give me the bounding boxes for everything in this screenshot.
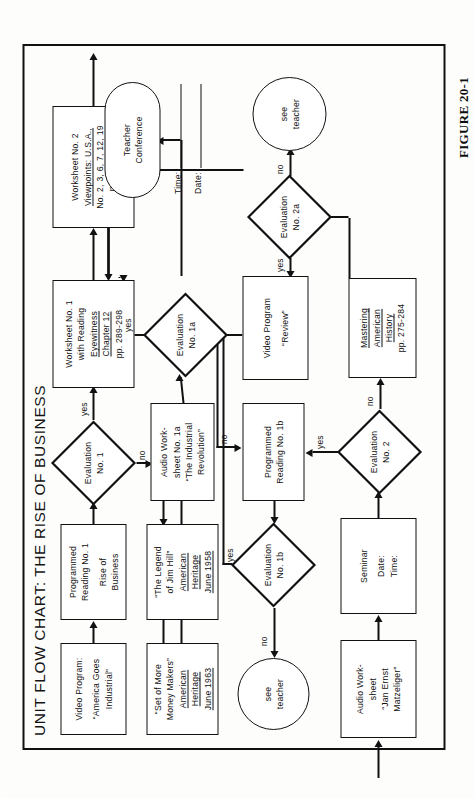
node-teacher-conference[interactable]: Teacher Conference — [104, 82, 160, 198]
connector-eval1b-no-to-seeteacher — [273, 608, 275, 654]
page-title: UNIT FLOW CHART: THE RISE OF BUSINESS — [30, 385, 48, 736]
connector-seminar-to-eval2 — [377, 495, 379, 518]
connector-video2-to-conference — [162, 139, 180, 141]
node-video-program-america-goes-industrial[interactable]: Video Program: “America Goes Industrial” — [60, 643, 126, 735]
node-line: Revolution” — [194, 429, 206, 475]
connector-eval2-yes-up — [312, 451, 338, 453]
connector-ws2-exit — [92, 58, 94, 106]
node-line: sheet — [366, 678, 378, 700]
connector-eval2a-no-to-seeteacher2 — [289, 152, 291, 176]
node-line: Worksheet No. 2 — [68, 133, 80, 201]
edge-label-eval1-yes: yes — [78, 402, 88, 416]
arrowhead — [376, 378, 384, 385]
date-field-blank[interactable] — [200, 84, 201, 168]
node-line: Programmed — [66, 546, 78, 598]
node-line: “The Industrial — [182, 423, 194, 482]
node-line: No. 2 — [379, 441, 391, 463]
node-evaluation-1a[interactable]: Evaluation No. 1a — [142, 292, 228, 378]
figure-caption: FIGURE 20-1 — [455, 77, 471, 158]
node-label: Evaluation No. 1b — [230, 522, 316, 608]
node-citation-money-makers[interactable]: “Set of More Money Makers” American Heri… — [146, 643, 218, 735]
node-see-teacher-2[interactable]: see teacher — [252, 77, 326, 151]
node-line: Business — [108, 554, 120, 591]
node-line: No. 1b — [273, 552, 285, 579]
connector-cite1-stub-a — [162, 620, 164, 643]
node-mastering-american-history[interactable]: Mastering American History pp. 275-284 — [348, 278, 416, 378]
connector-ws1-to-ws2 — [92, 232, 94, 280]
node-line: see — [261, 687, 273, 702]
node-line: History — [382, 314, 394, 343]
node-programmed-reading-1b[interactable]: Programmed Reading No. 1b — [242, 403, 304, 501]
node-evaluation-1b[interactable]: Evaluation No. 1b — [230, 522, 316, 608]
node-line: with Reading — [74, 308, 86, 361]
node-line: Evaluation — [261, 544, 273, 587]
node-line: June 1963 — [201, 668, 213, 710]
edge-label-eval2-no: no — [364, 396, 374, 406]
node-line: June 1958 — [201, 551, 213, 593]
node-video-program-review[interactable]: Video Program “Review” — [242, 276, 308, 380]
node-line: see — [277, 107, 289, 122]
time-field-blank[interactable] — [180, 84, 181, 168]
connector-cite2-stub-b — [180, 500, 182, 524]
node-line: Eyewitness — [87, 311, 99, 357]
node-line: Reading No. 1 — [78, 543, 90, 601]
node-line: pp. 275-284 — [394, 304, 406, 353]
node-line: No. 2a — [289, 204, 301, 231]
node-line: Evaluation — [81, 442, 93, 485]
node-line: “The Legend — [151, 546, 163, 597]
node-line: No. 1a — [185, 322, 197, 349]
node-line: Video Program: — [72, 657, 84, 720]
node-line: “America Goes — [89, 659, 101, 720]
node-programmed-reading-1[interactable]: Programmed Reading No. 1 Rise of Busines… — [60, 524, 126, 620]
arrowhead — [305, 449, 312, 457]
node-line: sheet No. 1a — [170, 426, 182, 478]
date-field-label: Date: — [192, 172, 202, 194]
node-line: “Review” — [278, 310, 290, 346]
edge-label-eval2a-yes: yes — [274, 258, 284, 272]
node-line: Chapter 12 — [99, 311, 111, 356]
node-see-teacher-1[interactable]: see teacher — [237, 658, 309, 730]
node-audio-worksheet-matzeliger[interactable]: Audio Work- sheet “Jan Ernst Matzeliger” — [340, 640, 416, 738]
node-line: American — [370, 309, 382, 347]
node-label: Evaluation No. 2a — [246, 174, 332, 260]
node-evaluation-2a[interactable]: Evaluation No. 2a — [246, 174, 332, 260]
arrowhead — [374, 740, 382, 747]
node-label: Evaluation No. 2 — [336, 409, 422, 495]
node-evaluation-2[interactable]: Evaluation No. 2 — [336, 409, 422, 495]
connector-eval2-no-to-mastering — [379, 383, 381, 409]
connector-matzeliger-to-seminar — [377, 620, 379, 640]
node-citation-legend-of-jim-hill[interactable]: “The Legend of Jim Hill” American Herita… — [146, 524, 218, 620]
connector-eval1-yes-to-ws1 — [92, 390, 94, 420]
node-line: Evaluation — [367, 431, 379, 474]
node-seminar[interactable]: Seminar Date: Time: — [340, 518, 416, 614]
node-line: Mastering — [357, 308, 369, 348]
node-line: Worksheet No. 1 — [62, 300, 74, 368]
node-line: Industrial” — [102, 669, 114, 709]
node-line: Time: — [387, 555, 399, 577]
node-line: Programmed — [261, 426, 273, 478]
arrowhead — [374, 615, 382, 622]
arrowhead — [89, 621, 97, 628]
node-line: “Jan Ernst — [378, 668, 390, 710]
edge-label-eval2a-no: no — [274, 164, 284, 174]
node-evaluation-1[interactable]: Evaluation No. 1 — [50, 420, 136, 506]
node-line: Rise of — [96, 558, 108, 587]
connector-video1-to-prog1 — [92, 627, 94, 643]
edge-label-eval1a-yes: yes — [122, 318, 132, 332]
node-line: “Set of More — [151, 664, 163, 714]
node-label: Evaluation No. 1a — [142, 292, 228, 378]
node-line: pp. 289-298 — [112, 310, 124, 359]
node-line: teacher — [273, 679, 285, 709]
node-line: American — [176, 670, 188, 708]
node-line: Video Program — [260, 298, 272, 358]
node-audio-worksheet-1a[interactable]: Audio Work- sheet No. 1a “The Industrial… — [150, 403, 214, 501]
node-line: Viewpoints: U.S.A., — [81, 128, 93, 206]
node-line: Evaluation — [277, 196, 289, 239]
connector-mastering-to-eval2a-h — [348, 218, 350, 278]
node-line: No. 1 — [93, 452, 105, 474]
node-line: Money Makers” — [163, 658, 175, 720]
node-line: of Jim Hill” — [163, 550, 175, 593]
edge-label-eval1-no: no — [136, 450, 146, 460]
edge-label-eval1a-no: no — [218, 434, 228, 444]
node-worksheet-1[interactable]: Worksheet No. 1 with Reading Eyewitness … — [52, 280, 134, 388]
